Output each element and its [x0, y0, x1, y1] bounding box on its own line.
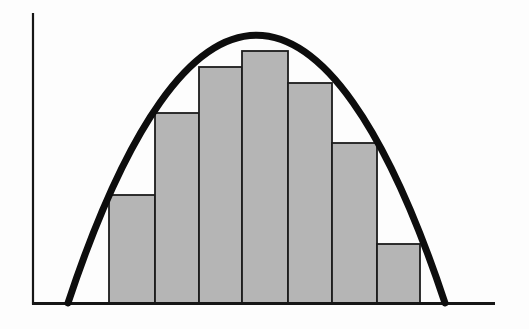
riemann-rectangle-6: [332, 143, 377, 303]
riemann-rectangle-4: [242, 51, 288, 303]
riemann-rectangle-7: [377, 244, 420, 303]
riemann-rectangle-5: [288, 83, 332, 303]
riemann-rectangle-3: [199, 67, 242, 303]
riemann-sum-plot: [0, 0, 529, 329]
riemann-rectangle-2: [155, 113, 199, 303]
riemann-sum-figure: [0, 0, 529, 329]
riemann-rectangle-1: [109, 195, 155, 303]
